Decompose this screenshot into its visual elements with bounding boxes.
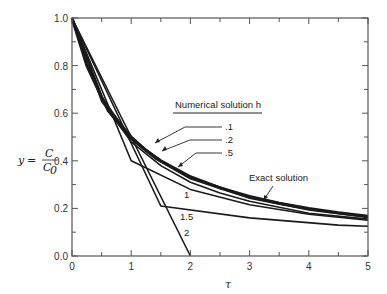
x-tick-label: 2 (188, 261, 194, 272)
series-label: .5 (225, 147, 233, 158)
svg-text:y: y (17, 154, 25, 167)
arrow-icon (162, 146, 167, 151)
x-tick-label: 4 (306, 261, 312, 272)
y-tick-label: 1.0 (54, 13, 68, 24)
x-tick-label: 1 (128, 261, 134, 272)
arrow-icon (178, 162, 183, 167)
series-label: .2 (225, 134, 233, 145)
y-tick-label: 0.6 (54, 108, 68, 119)
arrow-icon (155, 138, 160, 143)
svg-text:=: = (27, 154, 36, 167)
svg-text:0: 0 (50, 164, 57, 177)
series-label: 1.5 (180, 211, 193, 222)
series-label: 2 (184, 227, 189, 238)
series-line-h-2 (72, 18, 190, 256)
chart: 0123450.00.20.40.60.81.0τy =CC0 Numerica… (0, 0, 387, 294)
exact-solution-label: Exact solution (249, 172, 308, 183)
leader-line (178, 153, 222, 167)
series-label: .1 (225, 121, 233, 132)
axes: 0123450.00.20.40.60.81.0τy =CC0 (17, 13, 371, 291)
x-tick-label: 3 (247, 261, 253, 272)
legend-title: Numerical solution h (175, 99, 261, 110)
series-line-h--1 (72, 18, 368, 217)
series-label: 1 (184, 189, 189, 200)
y-axis-label: y =CC0 (17, 147, 58, 177)
svg-text:C: C (45, 147, 54, 160)
x-axis-label: τ (225, 278, 232, 291)
leader-line (162, 140, 222, 151)
x-tick-label: 5 (365, 261, 371, 272)
plot-area (72, 18, 368, 256)
y-tick-label: 0.8 (54, 61, 68, 72)
x-tick-label: 0 (69, 261, 75, 272)
y-tick-label: 0.0 (54, 251, 68, 262)
y-tick-label: 0.2 (54, 203, 68, 214)
plot-frame (72, 18, 368, 256)
